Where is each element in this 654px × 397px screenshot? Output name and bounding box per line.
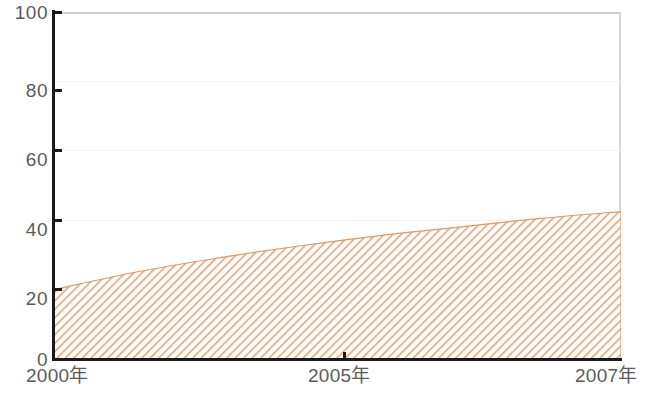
y-tick-label-20: 20: [4, 289, 48, 308]
y-tick-mark-60: [55, 149, 62, 152]
y-axis-line: [52, 10, 55, 361]
series-area-fill: [54, 12, 621, 359]
y-tick-mark-40: [55, 219, 62, 222]
x-tick-label-2007: 2007年: [575, 366, 638, 385]
area-chart: 100 80 60 40 20 0: [0, 0, 654, 397]
y-tick-label-80: 80: [4, 81, 48, 100]
x-tick-label-2005: 2005年: [308, 366, 371, 385]
y-tick-label-40: 40: [4, 220, 48, 239]
area-series-path: [54, 212, 621, 359]
x-tick-mark-2005: [343, 352, 346, 361]
y-tick-label-100: 100: [4, 3, 48, 22]
y-tick-label-60: 60: [4, 150, 48, 169]
x-axis-line: [52, 358, 622, 361]
y-tick-mark-100: [55, 11, 62, 14]
x-tick-label-2000: 2000年: [26, 366, 89, 385]
y-tick-mark-80: [55, 89, 62, 92]
y-axis-label-group: 100 80 60 40 20 0: [0, 0, 48, 397]
y-tick-mark-20: [55, 288, 62, 291]
plot-area: [54, 12, 621, 359]
